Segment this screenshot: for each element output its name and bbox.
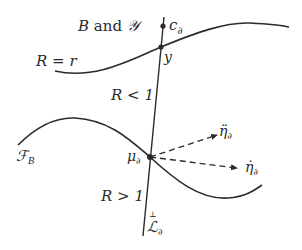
label-lower-curve: ℱB <box>16 147 35 166</box>
point-y-dot <box>158 44 163 49</box>
label-point-c: c∂ <box>169 16 183 36</box>
dashed-arrow-upper <box>150 135 217 157</box>
diagram-canvas: B and 𝒴 c∂ y R = r R < 1 ℱB μ∂ η̈∂ η̇∂ R… <box>0 0 302 250</box>
label-top-region: B and 𝒴 <box>77 17 143 35</box>
label-upper-curve: R = r <box>35 52 77 70</box>
label-point-mu: μ∂ <box>127 148 141 166</box>
label-region-bottom: R > 1 <box>100 187 144 205</box>
point-c-dot <box>160 23 165 28</box>
dashed-arrow-lower <box>150 157 237 168</box>
label-region-middle: R < 1 <box>110 86 154 104</box>
label-arrow-upper: η̈∂ <box>219 123 232 141</box>
label-line: ℒ∂ <box>147 218 163 237</box>
point-mu-dot <box>147 154 153 160</box>
label-arrow-lower: η̇∂ <box>245 159 258 177</box>
label-point-y: y <box>163 49 173 65</box>
